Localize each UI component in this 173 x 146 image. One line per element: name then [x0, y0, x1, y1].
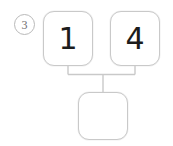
addend-value-2: 4 [125, 24, 144, 54]
addend-box-1[interactable]: 1 [43, 11, 93, 66]
number-bond-problem: 3 1 4 [0, 0, 173, 146]
addend-box-2[interactable]: 4 [110, 11, 160, 66]
problem-number-label: 3 [22, 19, 28, 31]
addend-value-1: 1 [58, 24, 77, 54]
problem-number-badge: 3 [14, 14, 35, 35]
sum-answer-box[interactable] [78, 92, 128, 140]
